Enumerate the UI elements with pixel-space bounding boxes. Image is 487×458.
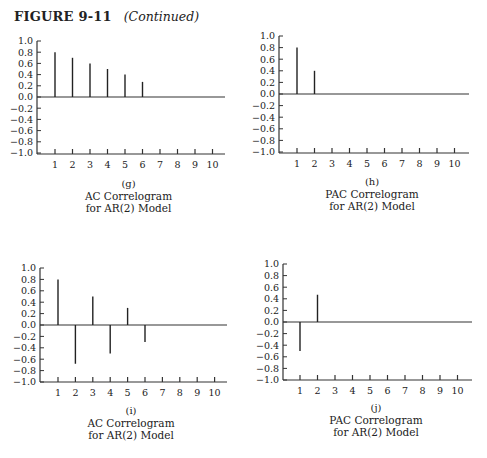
x-tick-label: 6 [139,159,145,170]
x-tick-label: 9 [437,385,443,396]
chart-caption-g: (g)AC Correlogramfor AR(2) Model [49,178,209,214]
chart-panel-j: 1.00.80.60.40.20.0−0.2−0.4−0.6−0.8−1.012… [256,258,472,396]
y-tick-label: 0.8 [260,42,275,53]
x-tick-label: 10 [448,158,460,169]
chart-caption-h: (h)PAC Correlogramfor AR(2) Model [292,176,452,212]
x-tick-label: 6 [381,158,387,169]
y-tick-label: −0.2 [256,328,279,339]
y-tick-label: −0.4 [256,340,279,351]
x-tick-label: 8 [177,387,183,398]
x-tick-label: 3 [329,158,335,169]
x-tick-label: 3 [87,159,93,170]
x-tick-label: 7 [159,387,165,398]
x-tick-label: 7 [402,385,408,396]
y-tick-label: 1.0 [21,262,36,273]
x-tick-label: 5 [125,387,131,398]
caption-title: PAC Correlogram [292,188,452,200]
caption-subtitle: for AR(2) Model [292,200,452,212]
caption-letter: (j) [296,402,456,414]
y-tick-label: −0.2 [252,100,275,111]
y-tick-label: −0.8 [13,365,36,376]
x-tick-label: 2 [314,385,320,396]
caption-letter: (g) [49,178,209,190]
x-tick-label: 8 [419,385,425,396]
y-tick-label: 0.6 [260,54,275,65]
x-tick-label: 8 [416,158,422,169]
x-tick-label: 10 [451,385,463,396]
y-tick-label: −0.6 [256,351,279,362]
x-tick-label: 1 [55,387,61,398]
x-tick-label: 2 [311,158,317,169]
x-tick-label: 9 [192,159,198,170]
y-tick-label: −0.8 [256,363,279,374]
chart-caption-i: (i)AC Correlogramfor AR(2) Model [51,405,211,441]
y-tick-label: 0.2 [21,308,36,319]
x-tick-label: 5 [367,385,373,396]
y-tick-label: 0.4 [260,65,275,76]
y-tick-label: 0.4 [18,69,33,80]
caption-title: PAC Correlogram [296,414,456,426]
caption-subtitle: for AR(2) Model [296,426,456,438]
x-tick-label: 5 [122,159,128,170]
caption-title: AC Correlogram [51,417,211,429]
y-tick-label: −1.0 [252,146,275,157]
y-tick-label: −1.0 [10,147,33,158]
caption-subtitle: for AR(2) Model [51,429,211,441]
x-tick-label: 10 [206,159,218,170]
x-tick-label: 4 [346,158,352,169]
y-tick-label: −0.2 [13,331,36,342]
y-tick-label: 0.8 [18,47,33,58]
y-tick-label: 0.0 [260,88,275,99]
x-tick-label: 6 [142,387,148,398]
x-tick-label: 1 [52,159,58,170]
y-tick-label: −1.0 [256,374,279,385]
y-tick-label: 0.6 [21,285,36,296]
caption-letter: (i) [51,405,211,417]
y-tick-label: −0.8 [10,136,33,147]
y-tick-label: 0.8 [21,274,36,285]
x-tick-label: 10 [209,387,221,398]
y-tick-label: 0.2 [18,80,33,91]
y-tick-label: 0.8 [264,270,279,281]
chart-panel-g: 1.00.80.60.40.20.0−0.2−0.4−0.6−0.8−1.012… [10,35,225,170]
caption-letter: (h) [292,176,452,188]
y-tick-label: 0.2 [264,305,279,316]
x-tick-label: 3 [332,385,338,396]
x-tick-label: 4 [107,387,113,398]
chart-panel-h: 1.00.80.60.40.20.0−0.2−0.4−0.6−0.8−1.012… [252,30,469,169]
correlogram-charts: 1.00.80.60.40.20.0−0.2−0.4−0.6−0.8−1.012… [0,0,487,458]
y-tick-label: 0.4 [264,293,279,304]
x-tick-label: 4 [104,159,110,170]
x-tick-label: 6 [384,385,390,396]
x-tick-label: 4 [349,385,355,396]
x-tick-label: 2 [69,159,75,170]
x-tick-label: 7 [399,158,405,169]
y-tick-label: 0.0 [264,316,279,327]
caption-title: AC Correlogram [49,190,209,202]
x-tick-label: 2 [72,387,78,398]
x-tick-label: 9 [194,387,200,398]
x-tick-label: 1 [294,158,300,169]
chart-panel-i: 1.00.80.60.40.20.0−0.2−0.4−0.6−0.8−1.012… [13,262,227,398]
y-tick-label: 1.0 [260,30,275,41]
y-tick-label: 0.6 [264,282,279,293]
x-tick-label: 5 [364,158,370,169]
y-tick-label: 0.0 [18,91,33,102]
x-tick-label: 9 [434,158,440,169]
x-tick-label: 7 [157,159,163,170]
y-tick-label: −1.0 [13,376,36,387]
chart-caption-j: (j)PAC Correlogramfor AR(2) Model [296,402,456,438]
y-tick-label: 1.0 [18,35,33,46]
y-tick-label: −0.2 [10,103,33,114]
y-tick-label: −0.6 [252,123,275,134]
x-tick-label: 8 [174,159,180,170]
y-tick-label: 0.6 [18,58,33,69]
y-tick-label: −0.6 [13,354,36,365]
y-tick-label: 0.4 [21,297,36,308]
y-tick-label: −0.4 [252,112,275,123]
y-tick-label: −0.8 [252,135,275,146]
y-tick-label: 1.0 [264,258,279,269]
y-tick-label: 0.0 [21,319,36,330]
y-tick-label: −0.6 [10,125,33,136]
y-tick-label: 0.2 [260,77,275,88]
